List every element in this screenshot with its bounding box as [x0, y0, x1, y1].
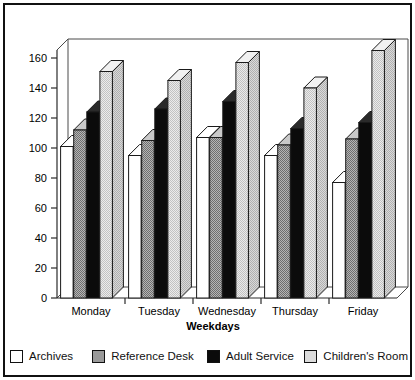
swatch-childrens-room-icon [304, 350, 317, 363]
legend-item-reference-desk: Reference Desk [92, 350, 193, 363]
y-tick-label: 60 [35, 202, 47, 214]
bar-chart: 020406080100120140160 MondayTuesdayWedne… [0, 0, 415, 335]
y-tick-label: 40 [35, 232, 47, 244]
swatch-adult-service-icon [207, 350, 220, 363]
x-tick-label-tuesday: Tuesday [138, 305, 180, 317]
bar-tuesday-children-s-room [168, 70, 192, 299]
legend-label-reference-desk: Reference Desk [111, 350, 193, 362]
y-tick-label: 0 [41, 292, 47, 304]
x-axis-title: Weekdays [186, 320, 240, 332]
legend-row: Archives Reference Desk Adult Service Ch… [10, 345, 408, 367]
y-tick-label: 120 [29, 112, 47, 124]
y-tick-label: 140 [29, 82, 47, 94]
legend-label-childrens-room: Children's Room [323, 350, 408, 362]
bar-monday-children-s-room [100, 61, 124, 299]
chart-screenshot: 020406080100120140160 MondayTuesdayWedne… [0, 0, 415, 380]
x-tick-label-monday: Monday [71, 305, 111, 317]
x-tick-label-wednesday: Wednesday [198, 305, 256, 317]
legend-item-childrens-room: Children's Room [304, 350, 408, 363]
y-tick-label: 80 [35, 172, 47, 184]
legend-label-archives: Archives [29, 350, 73, 362]
chart-canvas: 020406080100120140160 MondayTuesdayWedne… [0, 0, 415, 335]
bar-friday-children-s-room [372, 40, 396, 299]
y-axis: 020406080100120140160 [29, 52, 57, 304]
y-tick-label: 100 [29, 142, 47, 154]
y-tick-label: 160 [29, 52, 47, 64]
legend-label-adult-service: Adult Service [226, 350, 294, 362]
x-tick-label-friday: Friday [348, 305, 379, 317]
y-tick-label: 20 [35, 262, 47, 274]
bar-thursday-children-s-room [304, 77, 328, 298]
x-tick-label-thursday: Thursday [272, 305, 318, 317]
x-axis: MondayTuesdayWednesdayThursdayFriday [71, 298, 378, 317]
bar-wednesday-children-s-room [236, 52, 260, 299]
legend-item-archives: Archives [10, 350, 73, 363]
legend-item-adult-service: Adult Service [207, 350, 294, 363]
swatch-archives-icon [10, 350, 23, 363]
swatch-reference-desk-icon [92, 350, 105, 363]
chart-legend: Archives Reference Desk Adult Service Ch… [0, 337, 415, 377]
